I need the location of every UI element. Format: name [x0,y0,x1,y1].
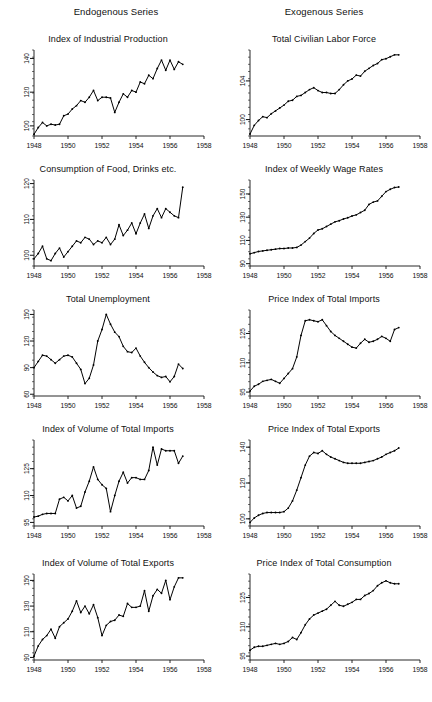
data-point [101,329,103,331]
data-point [287,100,289,102]
data-point [63,622,65,624]
data-point [93,244,95,246]
line-chart-1: 194819501952195419561958100104 [216,32,432,162]
data-point [46,513,48,515]
data-point [118,101,120,103]
series-line [34,578,183,656]
data-point [313,452,315,454]
data-point [144,361,146,363]
data-point [398,186,400,188]
data-point [59,247,61,249]
series-line [34,187,183,260]
data-point [262,116,264,118]
data-point [63,256,65,258]
data-point [300,94,302,96]
data-point [364,595,366,597]
data-point [385,58,387,60]
data-point [42,122,44,124]
data-point [296,95,298,97]
data-point [355,214,357,216]
data-point [118,614,120,616]
data-point [144,213,146,215]
data-point [351,346,353,348]
x-tick-label: 1954 [128,272,143,279]
data-point [321,319,323,321]
data-point [364,209,366,211]
data-point [394,187,396,189]
data-point [67,618,69,620]
data-point [105,96,107,98]
data-point [258,383,260,385]
data-point [33,655,35,657]
data-point [283,377,285,379]
data-point [351,78,353,80]
data-point [114,238,116,240]
data-point [343,218,345,220]
data-point [76,600,78,602]
data-point [262,513,264,515]
data-point [148,74,150,76]
data-point [389,340,391,342]
data-point [330,604,332,606]
y-tick-label: 120 [23,178,30,189]
x-tick-label: 1958 [196,402,211,409]
series-line [250,55,399,134]
series-line [250,581,399,650]
x-tick-label: 1952 [94,402,109,409]
data-point [148,367,150,369]
data-point [334,221,336,223]
data-point [377,338,379,340]
data-point [135,606,137,608]
data-point [54,513,56,515]
data-point [253,124,255,126]
data-point [364,338,366,340]
x-tick-label: 1958 [412,402,427,409]
data-point [313,614,315,616]
y-tick-label: 110 [239,235,246,246]
data-point [398,327,400,329]
data-point [169,381,171,383]
series-line [34,447,183,517]
data-point [321,228,323,230]
data-point [275,512,277,514]
y-tick-label: 90 [23,653,30,661]
data-point [97,617,99,619]
data-point [398,54,400,56]
data-point [152,78,154,80]
data-point [88,238,90,240]
data-point [385,337,387,339]
data-point [398,447,400,449]
data-point [33,516,35,518]
line-chart-9: 19481950195219541956195895110125 [216,556,432,686]
panel-7: Price Index of Total Exports194819501952… [216,422,432,552]
data-point [317,452,319,454]
y-tick-label: 150 [23,575,30,586]
x-tick-label: 1954 [344,402,359,409]
series-line [34,314,183,383]
data-point [300,632,302,634]
data-point [355,462,357,464]
data-point [368,67,370,69]
data-point [283,642,285,644]
data-point [105,236,107,238]
x-tick-label: 1954 [344,666,359,673]
data-point [279,382,281,384]
data-point [135,91,137,93]
data-point [334,600,336,602]
data-point [321,450,323,452]
data-point [131,352,133,354]
data-point [161,592,163,594]
data-point [118,336,120,338]
data-point [270,643,272,645]
data-point [338,604,340,606]
data-point [330,456,332,458]
y-tick-label: 95 [239,388,246,396]
data-point [394,450,396,452]
data-point [377,200,379,202]
data-point [330,331,332,333]
x-tick-label: 1954 [128,666,143,673]
x-tick-label: 1952 [310,272,325,279]
data-point [270,249,272,251]
data-point [42,245,44,247]
data-point [313,87,315,89]
